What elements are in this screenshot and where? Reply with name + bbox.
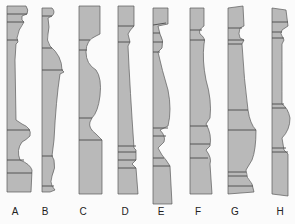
profile-label-h: H: [273, 206, 287, 217]
profile-c: [79, 6, 102, 194]
profile-h: [272, 8, 290, 196]
profile-a: [7, 6, 32, 192]
profile-d: [118, 6, 138, 194]
profile-label-d: D: [118, 206, 132, 217]
profile-e: [153, 8, 172, 204]
profile-b: [42, 8, 64, 192]
profile-g: [228, 6, 256, 194]
profile-label-g: G: [228, 206, 242, 217]
profile-label-b: B: [38, 206, 52, 217]
baluster-profiles-diagram: [0, 0, 295, 224]
profile-label-f: F: [191, 206, 205, 217]
profile-f: [190, 8, 212, 194]
profile-label-c: C: [76, 206, 90, 217]
profile-label-e: E: [154, 206, 168, 217]
profile-label-a: A: [8, 206, 22, 217]
